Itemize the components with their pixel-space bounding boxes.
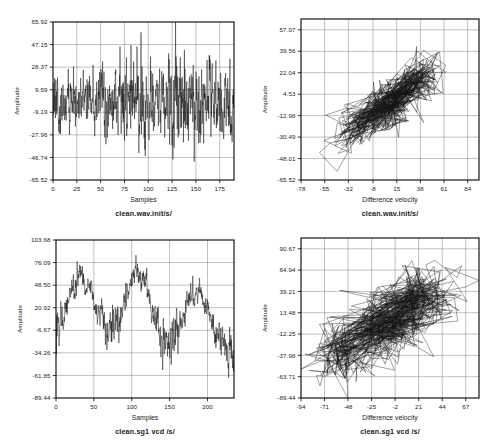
y-axis-title: Amplitude bbox=[13, 87, 20, 115]
plot-panel-bottom-left: 103.6876.0948.5020.92-6.67-34.26-61.85-8… bbox=[0, 220, 245, 441]
y-tick-label: -65.52 bbox=[29, 176, 48, 183]
x-tick-label: 175 bbox=[214, 185, 225, 192]
plot-top-right: 57.0739.5622.044.53-12.98-30.49-48.01-65… bbox=[245, 0, 490, 220]
x-tick-label: 100 bbox=[126, 403, 137, 410]
x-tick-label: -71 bbox=[320, 403, 330, 410]
plot-caption: clean.sg1 vcd /s/ bbox=[115, 427, 175, 436]
plot-bottom-left: 103.6876.0948.5020.92-6.67-34.26-61.85-8… bbox=[0, 220, 245, 441]
y-tick-label: -30.49 bbox=[277, 133, 296, 140]
data-trace bbox=[53, 22, 234, 162]
x-tick-label: 100 bbox=[143, 185, 154, 192]
y-tick-label: 13.48 bbox=[280, 309, 296, 316]
y-tick-label: -89.44 bbox=[277, 394, 296, 401]
plot-panel-top-right: 57.0739.5622.044.53-12.98-30.49-48.01-65… bbox=[245, 0, 490, 220]
y-tick-label: -89.44 bbox=[32, 394, 51, 401]
x-tick-label: 21 bbox=[415, 403, 423, 410]
x-tick-label: -94 bbox=[296, 403, 306, 410]
y-tick-label: 28.37 bbox=[32, 63, 48, 70]
y-tick-label: 48.50 bbox=[35, 281, 51, 288]
y-tick-label: 4.53 bbox=[283, 90, 296, 97]
x-axis-title: Samples bbox=[132, 414, 159, 422]
y-tick-label: -12.25 bbox=[277, 330, 296, 337]
y-tick-label: -34.26 bbox=[32, 349, 51, 356]
x-tick-label: -48 bbox=[343, 403, 353, 410]
y-tick-label: 22.04 bbox=[280, 69, 296, 76]
y-tick-label: -65.52 bbox=[277, 176, 296, 183]
figure-canvas: 65.9247.1528.379.59-9.19-27.96-46.74-65.… bbox=[0, 0, 490, 441]
plot-caption: clean.wav.init/s/ bbox=[362, 209, 419, 218]
y-tick-label: 9.59 bbox=[35, 86, 48, 93]
y-tick-label: 20.92 bbox=[35, 304, 51, 311]
y-axis-title: Amplitude bbox=[16, 305, 23, 333]
y-tick-label: 103.68 bbox=[31, 236, 51, 243]
y-tick-label: 39.56 bbox=[280, 47, 296, 54]
y-axis-title: Amplitude bbox=[261, 304, 268, 332]
y-tick-label: -6.67 bbox=[36, 326, 51, 333]
y-tick-label: 65.92 bbox=[32, 18, 48, 25]
plot-caption: clean.sg1 vcd /s/ bbox=[360, 427, 420, 436]
x-tick-label: 125 bbox=[167, 185, 178, 192]
x-tick-label: 0 bbox=[54, 403, 58, 410]
y-tick-label: 47.15 bbox=[32, 41, 48, 48]
y-tick-label: -27.96 bbox=[29, 131, 48, 138]
plot-bottom-right: 90.6764.9439.2113.48-12.25-37.98-63.71-8… bbox=[245, 220, 490, 441]
x-tick-label: 50 bbox=[90, 403, 98, 410]
x-tick-label: 200 bbox=[202, 403, 213, 410]
y-tick-label: -61.85 bbox=[32, 372, 51, 379]
x-tick-label: 15 bbox=[393, 185, 401, 192]
x-tick-label: -55 bbox=[320, 185, 330, 192]
data-trace bbox=[319, 46, 446, 171]
data-trace bbox=[301, 260, 479, 398]
y-tick-label: -9.19 bbox=[33, 108, 48, 115]
y-tick-label: -12.98 bbox=[277, 112, 296, 119]
y-tick-label: 90.67 bbox=[280, 245, 296, 252]
x-tick-label: 0 bbox=[51, 185, 55, 192]
x-tick-label: 61 bbox=[440, 185, 448, 192]
x-tick-label: -2 bbox=[392, 403, 398, 410]
y-tick-label: -63.71 bbox=[277, 373, 296, 380]
x-tick-label: 150 bbox=[164, 403, 175, 410]
x-tick-label: -78 bbox=[296, 185, 306, 192]
x-axis-title: Difference velocity bbox=[362, 414, 418, 422]
y-axis-title: Amplitude bbox=[261, 85, 268, 113]
x-tick-label: 50 bbox=[97, 185, 105, 192]
plot-caption: clean.wav.init/s/ bbox=[115, 209, 172, 218]
plot-top-left: 65.9247.1528.379.59-9.19-27.96-46.74-65.… bbox=[0, 0, 245, 220]
y-tick-label: -37.98 bbox=[277, 352, 296, 359]
y-tick-label: 39.21 bbox=[280, 288, 296, 295]
x-tick-label: 75 bbox=[121, 185, 129, 192]
x-tick-label: -8 bbox=[370, 185, 376, 192]
y-tick-label: 76.09 bbox=[35, 259, 51, 266]
x-tick-label: 84 bbox=[464, 185, 472, 192]
y-tick-label: -48.01 bbox=[277, 155, 296, 162]
x-tick-label: 44 bbox=[439, 403, 447, 410]
x-tick-label: 38 bbox=[417, 185, 425, 192]
x-tick-label: 150 bbox=[191, 185, 202, 192]
x-axis-title: Samples bbox=[130, 196, 157, 204]
plot-panel-bottom-right: 90.6764.9439.2113.48-12.25-37.98-63.71-8… bbox=[245, 220, 490, 441]
x-axis-title: Difference velocity bbox=[362, 196, 418, 204]
x-tick-label: -25 bbox=[367, 403, 377, 410]
y-tick-label: -46.74 bbox=[29, 154, 48, 161]
y-tick-label: 57.07 bbox=[280, 26, 296, 33]
x-tick-label: 67 bbox=[462, 403, 470, 410]
x-tick-label: 25 bbox=[73, 185, 81, 192]
plot-panel-top-left: 65.9247.1528.379.59-9.19-27.96-46.74-65.… bbox=[0, 0, 245, 220]
x-tick-label: -32 bbox=[344, 185, 354, 192]
y-tick-label: 64.94 bbox=[280, 266, 296, 273]
